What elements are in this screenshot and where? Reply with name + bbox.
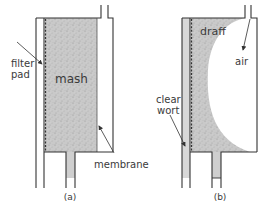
caption-b: (b) — [214, 192, 227, 202]
panel-a: filter pad mash membrane (a) — [11, 5, 149, 202]
outlet-wort-fill-a — [66, 152, 75, 178]
inlet-right-b — [251, 5, 257, 152]
top-wall-b — [182, 5, 245, 18]
filter-pad-label-2: pad — [11, 69, 30, 80]
bottom-right-b — [221, 152, 257, 188]
top-wall-a — [36, 5, 101, 18]
bottom-left-b — [190, 152, 212, 188]
bottom-left-a — [44, 152, 66, 188]
air-label: air — [235, 56, 249, 67]
filter-pad-label: filter — [11, 58, 35, 69]
mash-label: mash — [55, 72, 88, 86]
membrane-arrow — [99, 126, 114, 153]
membrane-label: membrane — [94, 159, 149, 170]
caption-a: (a) — [64, 192, 77, 202]
clear-wort-label: clear — [156, 94, 182, 105]
inlet-right-a — [108, 5, 113, 152]
draff-label: draff — [200, 25, 226, 38]
clear-wort-channel — [182, 18, 190, 178]
air-arrow — [243, 19, 250, 50]
clear-wort-label-2: wort — [157, 105, 179, 116]
panel-b: draff air clear wort (b) — [156, 5, 257, 202]
draff-region — [191, 18, 250, 152]
mash-filter-diagram: filter pad mash membrane (a) draff air c… — [0, 0, 268, 210]
bottom-right-a — [75, 152, 113, 188]
outlet-wort-fill-b — [212, 152, 221, 178]
